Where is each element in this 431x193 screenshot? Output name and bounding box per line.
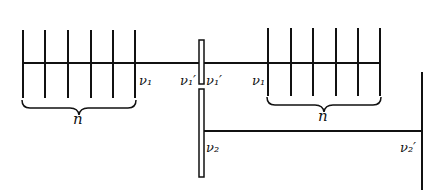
label-left-nu1: ν₁ <box>139 73 152 88</box>
label-left-n: n <box>73 110 83 128</box>
label-center-left-nu1-prime: ν₁′ <box>180 73 196 88</box>
center-bar <box>199 40 204 177</box>
label-right-nu1: ν₁ <box>252 73 265 88</box>
label-right-n: n <box>318 107 328 125</box>
label-center-right-nu1-prime: ν₁′ <box>206 73 222 88</box>
label-nu2-prime: ν₂′ <box>400 140 416 155</box>
energy-level-diagram: ν₁ ν₁′ ν₁′ ν₁ ν₂ ν₂′ n n <box>0 0 431 193</box>
label-nu2: ν₂ <box>206 140 219 155</box>
